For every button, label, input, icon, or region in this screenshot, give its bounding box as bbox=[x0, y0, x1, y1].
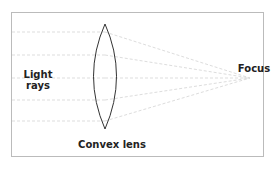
light-label: Light bbox=[18, 69, 58, 80]
lens-label: Convex lens bbox=[72, 139, 152, 150]
rays-label: rays bbox=[18, 80, 58, 91]
light-rays-label: Light rays bbox=[18, 69, 58, 91]
focus-label: Focus bbox=[234, 63, 274, 74]
